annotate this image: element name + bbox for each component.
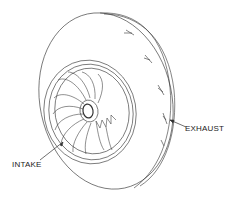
exhaust-arrow-icon bbox=[170, 120, 174, 123]
impeller-blades bbox=[53, 72, 116, 154]
intake-label: INTAKE bbox=[12, 160, 42, 169]
outer-disc-back bbox=[23, 0, 189, 200]
exhaust-label: EXHAUST bbox=[185, 124, 224, 133]
outer-rim bbox=[104, 14, 175, 186]
shroud-ring-mid bbox=[41, 57, 140, 166]
hub-inner bbox=[82, 103, 94, 119]
impeller-diagram bbox=[0, 0, 239, 200]
